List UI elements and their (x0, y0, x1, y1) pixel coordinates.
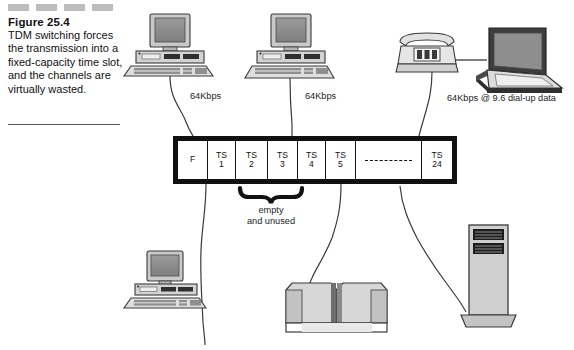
frame-cell-index: 4 (309, 160, 314, 169)
frame-cell-ellipsis (356, 141, 422, 179)
link-mainframe (308, 184, 341, 292)
device-laptop (476, 28, 562, 93)
frame-cell-ts4[interactable]: TS 4 (298, 141, 326, 179)
link-pc-bottom-left (201, 184, 206, 345)
frame-cell-ts3[interactable]: TS 3 (268, 141, 298, 179)
device-pc-top-left (124, 14, 213, 76)
link-pc-top-center (290, 78, 292, 136)
frame-cell-index: 1 (219, 160, 224, 169)
device-mainframe (286, 283, 387, 332)
frame-cell-index: 24 (432, 160, 442, 169)
frame-cell-label: F (190, 155, 195, 164)
empty-and-unused-label: empty and unused (228, 205, 314, 227)
ellipsis-dashes (365, 160, 412, 161)
rate-label-pc-top-left: 64Kbps (190, 91, 221, 101)
frame-cell-index: 2 (249, 160, 254, 169)
rate-label-dialup: 64Kbps @ 9.6 dial-up data (447, 93, 556, 103)
frame-cell-index: 5 (338, 160, 343, 169)
empty-label-line1: empty (228, 205, 314, 216)
empty-slots-brace (240, 188, 302, 203)
device-tower-server (461, 225, 516, 327)
rate-label-pc-top-center: 64Kbps (305, 91, 336, 101)
tdm-frame: F TS 1 TS 2 TS 3 TS 4 TS 5 TS 24 (173, 136, 457, 184)
frame-cell-ts1[interactable]: TS 1 (208, 141, 236, 179)
link-pc-top-left (170, 76, 193, 136)
device-pc-bottom-left (124, 251, 206, 308)
tdm-frame-cells: F TS 1 TS 2 TS 3 TS 4 TS 5 TS 24 (178, 141, 452, 179)
empty-label-line2: and unused (228, 216, 314, 227)
frame-cell-index: 3 (280, 160, 285, 169)
frame-cell-ts5[interactable]: TS 5 (326, 141, 356, 179)
frame-cell-f[interactable]: F (178, 141, 208, 179)
link-tower-server (400, 186, 466, 312)
device-telephone (396, 33, 458, 72)
frame-cell-ts24[interactable]: TS 24 (422, 141, 452, 179)
frame-cell-ts2[interactable]: TS 2 (236, 141, 268, 179)
link-telephone (419, 72, 432, 136)
device-pc-top-center (245, 14, 334, 78)
